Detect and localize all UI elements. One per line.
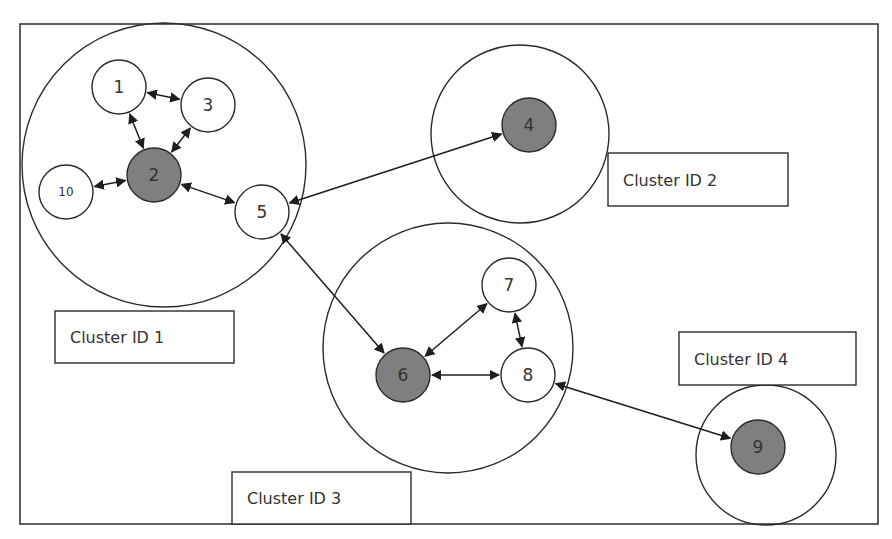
edge-8-9: [556, 384, 731, 439]
node-label: 10: [58, 185, 73, 199]
node-label: 5: [257, 202, 268, 222]
node-10: 10: [39, 165, 93, 219]
node-1: 1: [92, 60, 146, 114]
node-5: 5: [235, 185, 289, 239]
edge-1-2: [130, 114, 144, 148]
node-label: 9: [753, 437, 764, 457]
node-7: 7: [482, 258, 536, 312]
cluster-3-label-box: Cluster ID 3: [232, 472, 411, 524]
cluster-labels-layer: Cluster ID 1Cluster ID 2Cluster ID 3Clus…: [55, 153, 856, 524]
node-8: 8: [501, 348, 555, 402]
cluster-1-label-box: Cluster ID 1: [55, 311, 234, 363]
edge-1-3: [147, 93, 179, 100]
node-label: 7: [504, 275, 515, 295]
node-6-leader: 6: [376, 348, 430, 402]
node-label: 6: [398, 365, 409, 385]
edge-7-8: [515, 313, 522, 346]
node-4-leader: 4: [502, 98, 556, 152]
cluster-2-label-box: Cluster ID 2: [608, 153, 788, 206]
edge-6-7: [425, 304, 487, 356]
cluster-label-text: Cluster ID 2: [623, 171, 717, 190]
node-3: 3: [181, 78, 235, 132]
cluster-diagram: Cluster ID 1Cluster ID 2Cluster ID 3Clus…: [0, 0, 892, 539]
nodes-layer: 12345678910: [39, 60, 785, 474]
node-label: 4: [524, 115, 535, 135]
node-9-leader: 9: [731, 420, 785, 474]
cluster-label-text: Cluster ID 3: [247, 489, 341, 508]
node-2-leader: 2: [127, 148, 181, 202]
node-label: 1: [114, 77, 125, 97]
cluster-label-text: Cluster ID 1: [70, 328, 164, 347]
edge-10-2: [94, 181, 125, 187]
edge-2-5: [181, 184, 234, 202]
node-label: 8: [523, 365, 534, 385]
node-label: 2: [149, 165, 160, 185]
cluster-3-boundary: [323, 223, 573, 473]
node-label: 3: [203, 95, 214, 115]
edge-3-2: [172, 128, 191, 152]
cluster-4-label-box: Cluster ID 4: [679, 332, 856, 385]
edge-5-4: [290, 134, 502, 203]
cluster-label-text: Cluster ID 4: [694, 350, 788, 369]
